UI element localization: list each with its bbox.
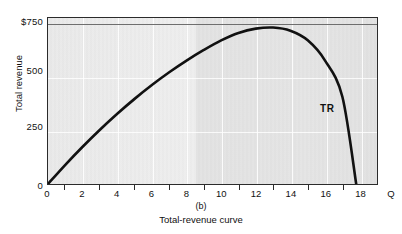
x-tick-label-0: 0 [37,188,57,199]
x-tick-label-12: 12 [246,188,266,199]
x-tick-label-18: 18 [351,188,371,199]
x-tick-mark [99,185,100,190]
x-tick-mark [204,185,205,190]
total-revenue-figure: Total revenue $750 500 250 0 TR 02468101… [0,0,402,234]
y-tick-label-750: $750 [21,16,43,27]
x-axis-title: Q [381,188,401,199]
x-tick-label-4: 4 [107,188,127,199]
y-axis-title: Total revenue [13,36,24,132]
y-tick-label-250: 250 [27,121,43,132]
x-tick-label-8: 8 [176,188,196,199]
total-revenue-curve [48,18,377,184]
x-tick-label-6: 6 [142,188,162,199]
x-tick-mark [134,185,135,190]
panel-letter: (b) [0,201,402,211]
x-tick-mark [239,185,240,190]
y-tick-label-500: 500 [27,65,43,76]
x-tick-label-14: 14 [281,188,301,199]
x-tick-mark [169,185,170,190]
tr-curve-label: TR [320,103,335,114]
x-tick-label-16: 16 [316,188,336,199]
x-tick-label-2: 2 [72,188,92,199]
x-tick-mark [273,185,274,190]
x-tick-mark [64,185,65,190]
x-tick-label-10: 10 [211,188,231,199]
figure-caption: Total-revenue curve [0,214,402,225]
x-tick-mark [308,185,309,190]
plot-area [47,17,378,185]
x-tick-mark [343,185,344,190]
